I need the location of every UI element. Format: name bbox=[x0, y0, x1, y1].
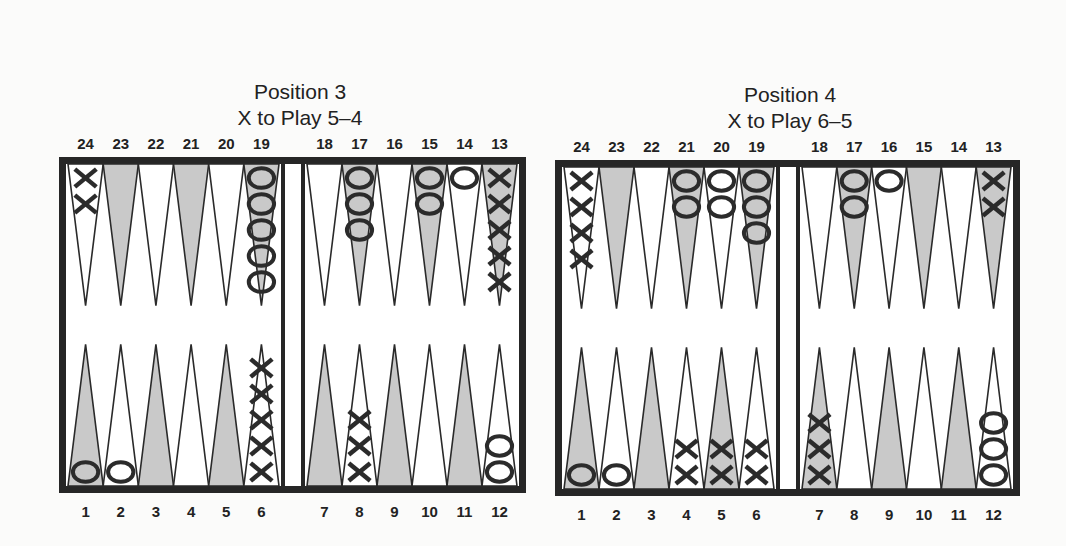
point-label-top: 18 bbox=[811, 138, 828, 155]
point-label-bottom: 10 bbox=[916, 506, 933, 523]
point-label-bottom: 9 bbox=[885, 506, 893, 523]
point-label-top: 19 bbox=[748, 138, 765, 155]
point-label-bottom: 3 bbox=[647, 506, 655, 523]
point-label-bottom: 6 bbox=[752, 506, 760, 523]
home-side-board bbox=[800, 167, 1013, 489]
point-label-top: 22 bbox=[643, 138, 660, 155]
backgammon-board: 241232223214205196187178169151014111312 bbox=[0, 0, 1066, 546]
point-label-bottom: 5 bbox=[717, 506, 725, 523]
bar-edge bbox=[776, 167, 780, 489]
point-label-bottom: 4 bbox=[682, 506, 691, 523]
point-label-top: 21 bbox=[678, 138, 695, 155]
point-label-bottom: 11 bbox=[951, 506, 967, 523]
point-label-top: 14 bbox=[950, 138, 967, 155]
point-label-bottom: 12 bbox=[985, 506, 1002, 523]
outer-board bbox=[562, 167, 776, 489]
point-label-bottom: 1 bbox=[577, 506, 585, 523]
point-label-top: 23 bbox=[608, 138, 625, 155]
point-label-top: 24 bbox=[573, 138, 590, 155]
point-label-bottom: 7 bbox=[815, 506, 823, 523]
point-label-bottom: 2 bbox=[612, 506, 620, 523]
point-label-top: 17 bbox=[846, 138, 863, 155]
point-label-top: 20 bbox=[713, 138, 730, 155]
point-label-top: 15 bbox=[916, 138, 933, 155]
point-label-bottom: 8 bbox=[850, 506, 858, 523]
point-label-top: 13 bbox=[985, 138, 1002, 155]
point-label-top: 16 bbox=[881, 138, 898, 155]
bar-edge bbox=[796, 167, 800, 489]
